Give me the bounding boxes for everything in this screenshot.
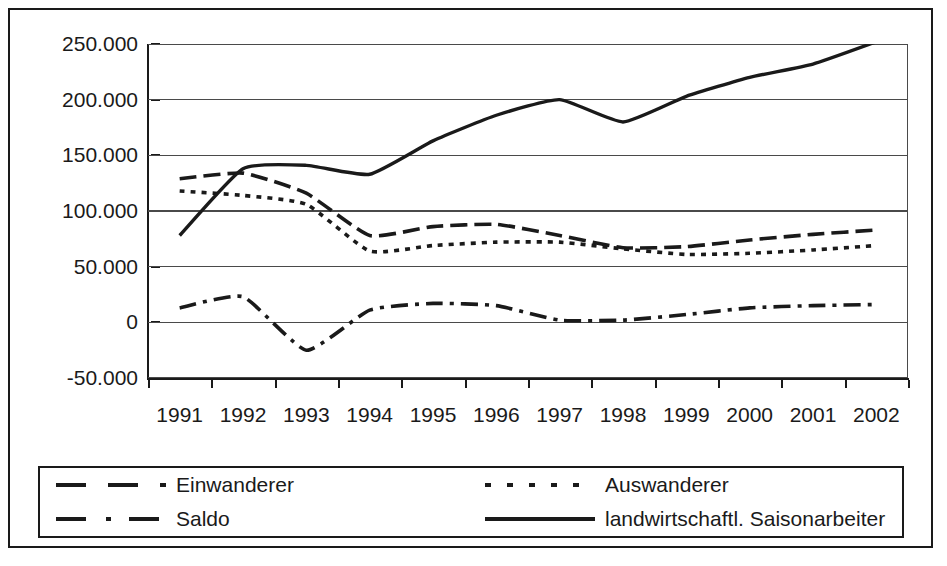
x-axis-tick-mark bbox=[718, 380, 720, 388]
x-axis-tick-mark bbox=[591, 380, 593, 388]
x-axis-tick-mark bbox=[465, 380, 467, 388]
series-line bbox=[180, 296, 877, 350]
x-axis-tick-label: 1995 bbox=[401, 404, 464, 426]
y-axis-tick-label: -50.000 bbox=[67, 367, 138, 388]
legend-item[interactable]: Auswanderer bbox=[471, 468, 902, 502]
x-axis-tick-label: 2001 bbox=[781, 404, 844, 426]
x-axis-tick-mark bbox=[528, 380, 530, 388]
legend-item[interactable]: Einwanderer bbox=[40, 468, 471, 502]
chart-legend: EinwandererAuswandererSaldolandwirtschaf… bbox=[38, 466, 904, 538]
y-axis-tick-label: 100.000 bbox=[62, 200, 138, 221]
legend-line-sample bbox=[481, 477, 599, 493]
x-axis-tick-mark bbox=[908, 380, 910, 388]
x-axis-tick-label: 1998 bbox=[591, 404, 654, 426]
x-axis-tick-mark bbox=[845, 380, 847, 388]
series-line bbox=[180, 191, 877, 255]
legend-label: landwirtschaftl. Saisonarbeiter bbox=[605, 508, 885, 530]
chart-page: 250.000200.000150.000100.00050.0000-50.0… bbox=[0, 0, 947, 566]
series-canvas bbox=[148, 44, 908, 378]
plot-area bbox=[148, 44, 908, 378]
y-axis-tick-label: 200.000 bbox=[62, 89, 138, 110]
legend-line-sample bbox=[52, 511, 170, 527]
x-axis-tick-mark bbox=[148, 380, 150, 388]
legend-line-sample bbox=[481, 511, 599, 527]
x-axis-tick-mark bbox=[401, 380, 403, 388]
x-axis-tick-label: 1993 bbox=[275, 404, 338, 426]
x-axis-tick-label: 1999 bbox=[655, 404, 718, 426]
legend-item[interactable]: landwirtschaftl. Saisonarbeiter bbox=[471, 502, 902, 536]
x-axis-tick-label: 1994 bbox=[338, 404, 401, 426]
x-axis-tick-label: 1997 bbox=[528, 404, 591, 426]
y-axis-labels: 250.000200.000150.000100.00050.0000-50.0… bbox=[10, 0, 138, 440]
legend-label: Saldo bbox=[176, 508, 230, 530]
x-axis-tick-label: 1991 bbox=[148, 404, 211, 426]
x-axis-tick-label: 2002 bbox=[845, 404, 908, 426]
series-line bbox=[180, 44, 877, 235]
legend-label: Einwanderer bbox=[176, 474, 294, 496]
x-axis-tick-mark bbox=[781, 380, 783, 388]
y-axis-tick-label: 50.000 bbox=[74, 256, 138, 277]
x-axis-tick-mark bbox=[211, 380, 213, 388]
x-axis-tick-label: 1992 bbox=[211, 404, 274, 426]
y-axis-tick-label: 250.000 bbox=[62, 33, 138, 54]
x-axis-tick-mark bbox=[655, 380, 657, 388]
y-axis-tick-label: 0 bbox=[126, 311, 138, 332]
legend-label: Auswanderer bbox=[605, 474, 729, 496]
y-axis-tick-label: 150.000 bbox=[62, 144, 138, 165]
x-axis-tick-mark bbox=[275, 380, 277, 388]
legend-item[interactable]: Saldo bbox=[40, 502, 471, 536]
legend-line-sample bbox=[52, 477, 170, 493]
x-axis-tick-mark bbox=[338, 380, 340, 388]
x-axis-tick-label: 1996 bbox=[465, 404, 528, 426]
x-axis-tick-label: 2000 bbox=[718, 404, 781, 426]
